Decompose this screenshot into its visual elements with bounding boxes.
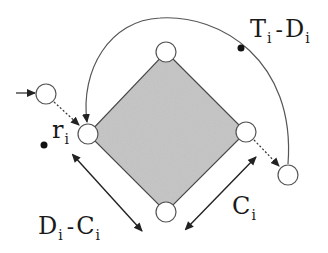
label-subscript: i (96, 227, 100, 243)
label-operator: - (67, 214, 74, 239)
label-deadline-minus-cost: Di-Ci (38, 214, 100, 238)
dotted-arrow-right-exit (254, 140, 279, 166)
label-subscript: i (64, 131, 68, 147)
node-left (78, 124, 98, 144)
node-exit (278, 165, 298, 185)
label-subscript: i (305, 30, 309, 46)
label-subscript: i (251, 207, 255, 223)
node-bottom (156, 202, 176, 222)
node-entry (36, 84, 56, 104)
node-top (156, 42, 176, 62)
label-cost: Ci (232, 194, 256, 218)
dot-period-minus-deadline (238, 45, 245, 52)
label-subscript: i (267, 30, 271, 46)
label-symbol: D (38, 212, 57, 240)
label-symbol: T (250, 15, 266, 43)
label-symbol: C (232, 192, 250, 220)
label-release: ri (52, 118, 69, 142)
label-symbol: D (285, 15, 304, 43)
node-right (236, 122, 256, 142)
timing-diagram: Ti-Di ri Di-Ci Ci (0, 0, 328, 253)
dot-release (41, 142, 48, 149)
label-period-minus-deadline: Ti-Di (250, 17, 310, 41)
label-symbol: r (52, 116, 63, 144)
label-operator: - (276, 17, 283, 42)
diamond-shape (88, 52, 246, 212)
label-symbol: C (76, 212, 94, 240)
label-subscript: i (58, 227, 62, 243)
